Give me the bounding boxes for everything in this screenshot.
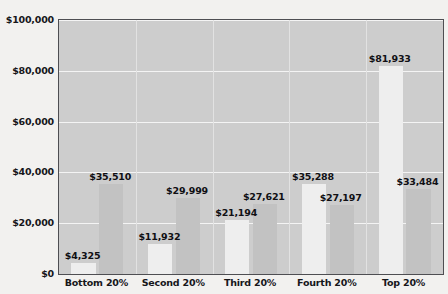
y-axis-tick-label: $40,000 <box>0 166 54 177</box>
bar-value-label: $35,288 <box>292 171 334 182</box>
x-axis-tick-label: Bottom 20% <box>65 277 128 288</box>
y-axis-tick-label: $20,000 <box>0 217 54 228</box>
bar-value-label: $29,999 <box>166 185 208 196</box>
x-axis-tick-label: Fourth 20% <box>297 277 356 288</box>
vertical-gridline <box>136 20 137 274</box>
y-axis: $100,000$80,000$60,000$40,000$20,000$0 <box>0 0 54 294</box>
bar-value-label: $4,325 <box>65 250 100 261</box>
x-axis-tick-label: Third 20% <box>224 277 276 288</box>
bar-series-2-0 <box>99 184 123 274</box>
y-axis-tick-label: $0 <box>0 268 54 279</box>
bar-series-1-4 <box>379 66 403 274</box>
bar-series-1-2 <box>225 220 249 274</box>
bar-value-label: $11,932 <box>138 231 180 242</box>
bar-series-2-3 <box>330 205 354 274</box>
vertical-gridline <box>213 20 214 274</box>
bar-series-2-4 <box>406 189 430 274</box>
bar-value-label: $33,484 <box>396 176 438 187</box>
bar-value-label: $27,197 <box>320 192 362 203</box>
gridline <box>59 20 443 21</box>
vertical-gridline <box>366 20 367 274</box>
vertical-gridline <box>289 20 290 274</box>
y-axis-tick-label: $60,000 <box>0 116 54 127</box>
bar-value-label: $27,621 <box>243 191 285 202</box>
bar-value-label: $35,510 <box>89 171 131 182</box>
x-axis-tick-label: Second 20% <box>142 277 205 288</box>
bar-chart: $100,000$80,000$60,000$40,000$20,000$0 B… <box>0 0 448 294</box>
bar-value-label: $81,933 <box>369 53 411 64</box>
bar-series-1-1 <box>148 244 172 274</box>
bar-value-label: $21,194 <box>215 207 257 218</box>
bar-series-1-0 <box>71 263 95 274</box>
y-axis-tick-label: $100,000 <box>0 14 54 25</box>
x-axis-tick-label: Top 20% <box>382 277 425 288</box>
y-axis-tick-label: $80,000 <box>0 65 54 76</box>
x-axis: Bottom 20%Second 20%Third 20%Fourth 20%T… <box>58 277 444 294</box>
